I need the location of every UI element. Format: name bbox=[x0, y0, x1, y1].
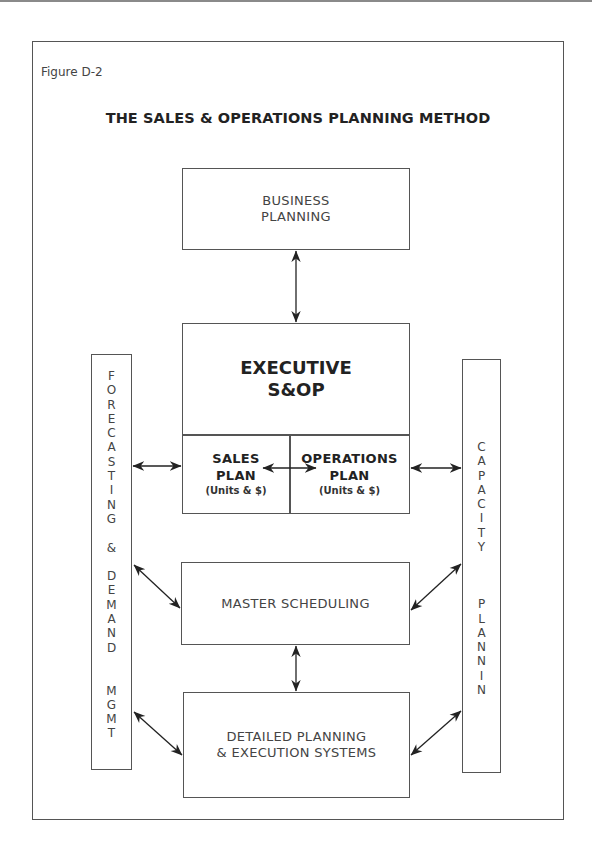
connector-arrows bbox=[0, 0, 592, 861]
arrow-forecasting-master bbox=[134, 565, 180, 608]
arrow-master-capacity bbox=[411, 564, 461, 610]
arrow-forecasting-detailed bbox=[134, 712, 182, 755]
arrow-detailed-capacity bbox=[411, 711, 461, 755]
